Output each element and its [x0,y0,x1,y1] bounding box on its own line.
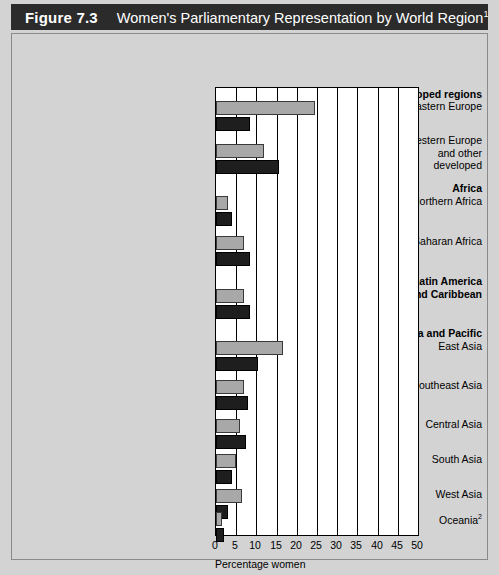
x-axis-tick-label: 5 [224,539,246,551]
bar-1994 [216,160,279,174]
x-axis-tick-label: 45 [386,539,408,551]
x-axis-tick-label: 35 [345,539,367,551]
gridline [277,88,278,535]
bar-1987 [216,196,228,210]
bar-1987 [216,289,244,303]
x-axis-tick-label: 20 [285,539,307,551]
category-label-footnote-marker: 2 [478,513,482,520]
x-axis-tick-label: 50 [406,539,428,551]
bar-1987 [216,101,315,115]
bar-1994 [216,305,250,319]
bar-1994 [216,212,232,226]
bar-1987 [216,144,264,158]
gridline [378,88,379,535]
figure-title: Women's Parliamentary Representation by … [117,9,489,26]
x-axis-title: Percentage women [215,558,305,570]
figure-title-footnote-marker: 1 [483,9,488,19]
figure-title-bar: Figure 7.3 Women's Parliamentary Represe… [11,4,488,30]
bar-1994 [216,470,232,484]
x-axis-tick-label: 0 [204,539,226,551]
figure-container: Figure 7.3 Women's Parliamentary Represe… [0,0,499,575]
bar-1987 [216,489,242,503]
bar-1994 [216,435,246,449]
gridline [337,88,338,535]
bar-1987 [216,454,236,468]
x-axis-tick-label: 10 [244,539,266,551]
x-axis-tick-label: 15 [265,539,287,551]
bar-1994 [216,117,250,131]
x-axis-tick-label: 40 [366,539,388,551]
x-axis-tick-label: 30 [325,539,347,551]
bar-1987 [216,512,222,526]
gridline [357,88,358,535]
bar-1987 [216,236,244,250]
figure-title-text: Women's Parliamentary Representation by … [117,9,484,25]
figure-number: Figure 7.3 [25,9,98,26]
bar-1987 [216,419,240,433]
plot-area [215,87,419,536]
bar-1994 [216,252,250,266]
gridline [297,88,298,535]
gridline [317,88,318,535]
x-axis-tick-label: 25 [305,539,327,551]
bar-1994 [216,396,248,410]
gridline [418,88,419,535]
bar-1987 [216,380,244,394]
chart-panel: Developed regionsEastern EuropeWestern E… [11,33,488,560]
bar-1987 [216,341,283,355]
bar-1994 [216,357,258,371]
gridline [398,88,399,535]
